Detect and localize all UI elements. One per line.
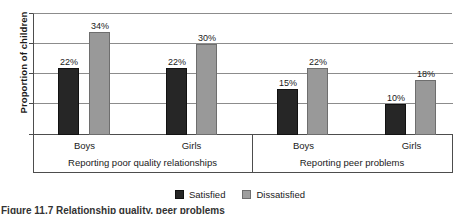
y-axis-title: Proportion of children (18, 0, 29, 133)
category-label-g1-girls: Girls (158, 140, 225, 151)
legend-item-satisfied[interactable]: Satisfied (175, 189, 225, 200)
category-label-g2-boys: Boys (270, 140, 337, 151)
bar-satisfied-g1-boys[interactable] (58, 68, 79, 135)
bar-label-dissatisfied-g2-girls: 18% (409, 69, 443, 79)
legend-swatch-dissatisfied-icon (242, 190, 251, 199)
group-label-peer-problems: Reporting peer problems (252, 157, 452, 168)
category-axis-sep-middle (252, 134, 253, 173)
category-label-g2-girls: Girls (378, 140, 445, 151)
legend: Satisfied Dissatisfied (175, 189, 305, 200)
group-label-relationships: Reporting poor quality relationships (33, 157, 252, 168)
bar-dissatisfied-g2-boys[interactable] (307, 68, 328, 135)
bar-label-satisfied-g2-boys: 15% (271, 78, 305, 88)
bar-dissatisfied-g1-girls[interactable] (196, 44, 217, 135)
bar-label-satisfied-g1-girls: 22% (160, 57, 194, 67)
legend-item-dissatisfied[interactable]: Dissatisfied (242, 189, 305, 200)
bar-satisfied-g2-girls[interactable] (385, 104, 406, 135)
figure-caption: Figure 11.7 Relationship quality, peer p… (1, 205, 225, 214)
bar-label-satisfied-g1-boys: 22% (52, 57, 86, 67)
bar-label-satisfied-g2-girls: 10% (379, 93, 413, 103)
category-axis-sep-right (452, 134, 453, 173)
category-label-g1-boys: Boys (51, 140, 118, 151)
category-axis-bottom-rule (33, 172, 452, 173)
chart-screenshot: Proportion of children 22% 34% 22% 30% 1… (0, 0, 475, 214)
legend-label-satisfied: Satisfied (189, 189, 225, 200)
category-axis-sep-left (33, 134, 34, 173)
bar-satisfied-g1-girls[interactable] (166, 68, 187, 135)
bar-label-dissatisfied-g1-boys: 34% (83, 21, 117, 31)
bar-dissatisfied-g2-girls[interactable] (415, 80, 436, 135)
legend-label-dissatisfied: Dissatisfied (256, 189, 305, 200)
legend-swatch-satisfied-icon (175, 190, 184, 199)
bar-satisfied-g2-boys[interactable] (277, 89, 298, 135)
bar-label-dissatisfied-g1-girls: 30% (190, 33, 224, 43)
bar-label-dissatisfied-g2-boys: 22% (301, 57, 335, 67)
bar-dissatisfied-g1-boys[interactable] (89, 32, 110, 135)
